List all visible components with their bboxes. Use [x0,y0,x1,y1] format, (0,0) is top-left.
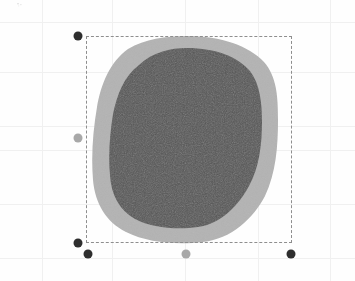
handle-middle-left[interactable] [74,134,83,143]
handle-bottom-offset[interactable] [84,250,93,259]
handle-bottom-left[interactable] [74,239,83,248]
shape-artwork[interactable] [0,0,355,281]
handle-top-left[interactable] [74,32,83,41]
handle-bottom-right[interactable] [287,250,296,259]
drawing-canvas[interactable]: Filled circle with halo ring [0,0,355,281]
handle-bottom-center[interactable] [182,250,191,259]
scan-speck-icon [16,2,23,8]
